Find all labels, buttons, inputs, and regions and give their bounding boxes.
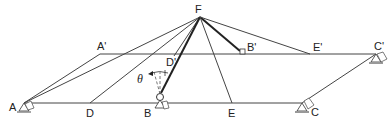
- label-theta: θ: [137, 72, 143, 86]
- label-Bprime: B': [247, 41, 256, 53]
- member-F-B: [161, 17, 200, 93]
- label-Aprime: A': [97, 40, 106, 52]
- support-B-icon: [155, 100, 169, 109]
- label-C: C: [311, 106, 319, 118]
- label-Cprime: C': [374, 40, 384, 52]
- member-F-D: [90, 17, 200, 103]
- theta-arc: [151, 72, 168, 74]
- theta-dash-tilted: [154, 72, 160, 94]
- label-B: B: [144, 107, 151, 119]
- label-F: F: [195, 3, 202, 15]
- label-A: A: [9, 101, 17, 113]
- edge-A-Aprime: [24, 54, 100, 103]
- truss-diagram: F A D B E C A' D' B' E' C' θ: [0, 0, 391, 125]
- label-E: E: [228, 107, 235, 119]
- label-D: D: [86, 107, 94, 119]
- theta-arrowhead-icon: [148, 71, 153, 76]
- label-Dprime: D': [166, 56, 176, 68]
- node-Bprime-marker: [240, 49, 245, 54]
- label-Eprime: E': [313, 41, 322, 53]
- edge-C-Cprime: [302, 54, 376, 103]
